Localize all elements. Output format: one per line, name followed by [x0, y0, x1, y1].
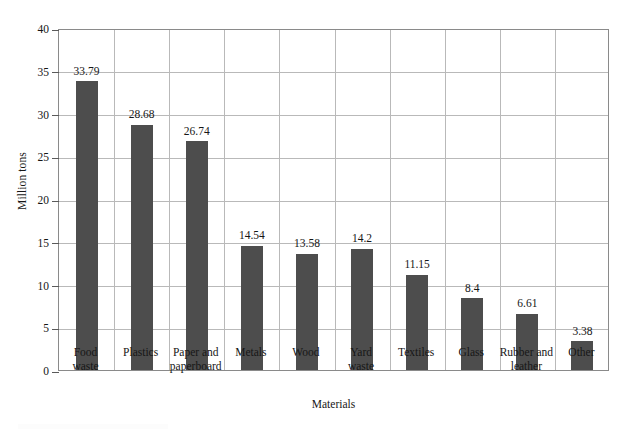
- bar-group: 26.74: [169, 30, 224, 370]
- bar-group: 8.4: [445, 30, 500, 370]
- y-axis-tick: [52, 243, 59, 244]
- y-axis-tick-label: 25: [19, 152, 49, 164]
- bar-group: 6.61: [500, 30, 555, 370]
- bar-group: 3.38: [555, 30, 610, 370]
- bar-group: 13.58: [279, 30, 334, 370]
- y-axis-tick-label: 15: [19, 238, 49, 250]
- y-axis-tick-label: 40: [19, 24, 49, 36]
- bar-value-label: 14.54: [239, 230, 265, 242]
- bar: [76, 81, 98, 370]
- scan-artifact: [18, 424, 168, 429]
- y-axis-tick-label: 30: [19, 110, 49, 122]
- bar-value-label: 3.38: [572, 326, 592, 338]
- bar-value-label: 11.15: [404, 259, 429, 271]
- bar-group: 14.2: [335, 30, 390, 370]
- y-axis-tick: [52, 201, 59, 202]
- y-axis-tick: [52, 115, 59, 116]
- bar-value-label: 13.58: [294, 238, 320, 250]
- x-axis-category-label-line: Other: [536, 345, 627, 359]
- x-axis-category-label-line: waste: [316, 359, 407, 373]
- y-axis-tick: [52, 30, 59, 31]
- x-axis-category-label-line: leather: [481, 359, 572, 373]
- y-axis-tick-label: 10: [19, 281, 49, 293]
- bar-value-label: 8.4: [465, 283, 479, 295]
- bar-group: 28.68: [114, 30, 169, 370]
- y-axis-tick-label: 35: [19, 67, 49, 79]
- y-axis-tick: [52, 72, 59, 73]
- x-axis-category-label-line: waste: [40, 359, 131, 373]
- bar-value-label: 26.74: [184, 126, 210, 138]
- bar: [186, 141, 208, 370]
- y-axis-tick-label: 20: [19, 195, 49, 207]
- bar-group: 14.54: [224, 30, 279, 370]
- bar-value-label: 33.79: [74, 66, 100, 78]
- bar-chart-figure: Million tons 051015202530354033.7928.682…: [0, 0, 636, 437]
- bar-group: 11.15: [390, 30, 445, 370]
- x-axis-category-label-line: paperboard: [150, 359, 241, 373]
- y-axis-tick: [52, 329, 59, 330]
- y-axis-tick: [52, 158, 59, 159]
- x-axis-title: Materials: [58, 398, 609, 410]
- bar-value-label: 6.61: [517, 298, 537, 310]
- plot-area: 051015202530354033.7928.6826.7414.5413.5…: [58, 29, 609, 371]
- bar-group: 33.79: [59, 30, 114, 370]
- bar-value-label: 14.2: [352, 233, 372, 245]
- y-axis-tick-label: 5: [19, 323, 49, 335]
- x-axis-category-label: Other: [536, 345, 627, 359]
- bar-value-label: 28.68: [129, 109, 155, 121]
- y-axis-tick: [52, 286, 59, 287]
- bar: [131, 125, 153, 370]
- y-axis-title: Million tons: [16, 121, 28, 241]
